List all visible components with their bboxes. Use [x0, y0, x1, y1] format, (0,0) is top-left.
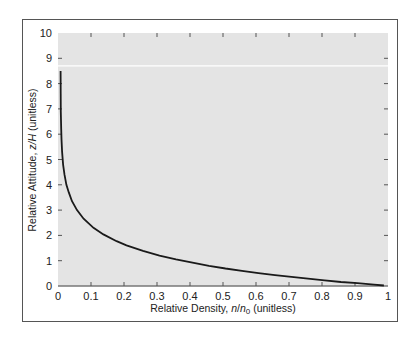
x-tick-label: 0.6 [248, 290, 263, 302]
y-tick-label: 9 [46, 52, 52, 64]
chart: 00.10.20.30.40.50.60.70.80.91 0123456789… [0, 0, 409, 340]
y-tick-label: 4 [46, 179, 52, 191]
x-tick-label: 0.7 [281, 290, 296, 302]
y-tick-label: 10 [40, 27, 52, 39]
x-tick-label: 0.5 [215, 290, 230, 302]
y-tick-label: 0 [46, 280, 52, 292]
x-tick-label: 1 [385, 290, 391, 302]
y-tick-label: 8 [46, 78, 52, 90]
x-tick-label: 0.9 [347, 290, 362, 302]
y-tick-label: 3 [46, 204, 52, 216]
x-tick-label: 0 [55, 290, 61, 302]
y-tick-label: 1 [46, 255, 52, 267]
x-tick-label: 0.2 [116, 290, 131, 302]
y-tick-label: 2 [46, 229, 52, 241]
y-tick-label: 6 [46, 128, 52, 140]
x-tick-label: 0.1 [83, 290, 98, 302]
x-tick-label: 0.3 [149, 290, 164, 302]
y-axis-label: Relative Attitude, z/H (unitless) [26, 89, 38, 232]
y-tick-label: 7 [46, 103, 52, 115]
x-tick-label: 0.4 [182, 290, 197, 302]
x-tick-label: 0.8 [314, 290, 329, 302]
plot-area [58, 33, 388, 286]
x-axis-label: Relative Density, n/n0 (unitless) [150, 302, 296, 316]
y-tick-label: 5 [46, 154, 52, 166]
